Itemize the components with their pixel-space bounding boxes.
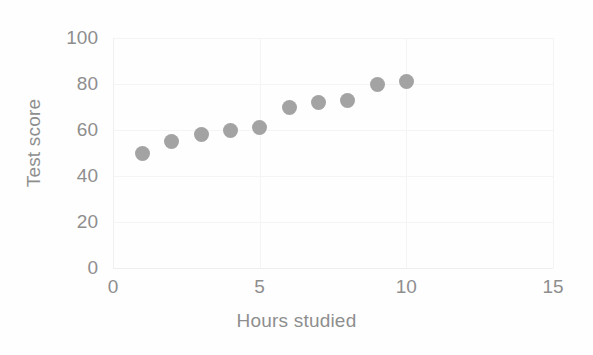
data-point: [252, 120, 267, 135]
y-tick-label-100: 100: [66, 27, 98, 49]
data-point: [370, 77, 385, 92]
data-point: [399, 74, 414, 89]
data-point: [135, 146, 150, 161]
x-tick-label-15: 15: [542, 276, 563, 298]
gridline-y-0: [113, 268, 553, 269]
gridline-y-20: [113, 222, 553, 223]
y-axis-title-label: Test score: [23, 98, 45, 187]
data-point: [311, 95, 326, 110]
y-tick-label-20: 20: [77, 211, 98, 233]
scatter-chart-screenshot: Test score 020406080100 051015 Hours stu…: [0, 0, 593, 355]
x-tick-label-5: 5: [254, 276, 265, 298]
data-point: [194, 127, 209, 142]
y-tick-label-0: 0: [87, 257, 98, 279]
data-point: [340, 93, 355, 108]
gridline-y-100: [113, 38, 553, 39]
gridline-x-15: [553, 38, 554, 268]
gridline-y-60: [113, 130, 553, 131]
gridline-x-10: [406, 38, 407, 268]
y-tick-label-60: 60: [77, 119, 98, 141]
y-tick-label-40: 40: [77, 165, 98, 187]
plot-area: [113, 38, 553, 268]
x-tick-label-0: 0: [108, 276, 119, 298]
data-point: [164, 134, 179, 149]
gridline-y-40: [113, 176, 553, 177]
x-tick-label-10: 10: [396, 276, 417, 298]
y-axis-tick-labels: 020406080100: [46, 0, 106, 285]
data-point: [282, 100, 297, 115]
gridline-y-80: [113, 84, 553, 85]
y-tick-label-80: 80: [77, 73, 98, 95]
x-axis-tick-labels: 051015: [113, 276, 553, 306]
gridline-x-0: [113, 38, 114, 268]
data-point: [223, 123, 238, 138]
gridline-x-5: [260, 38, 261, 268]
x-axis-title: Hours studied: [0, 310, 593, 332]
